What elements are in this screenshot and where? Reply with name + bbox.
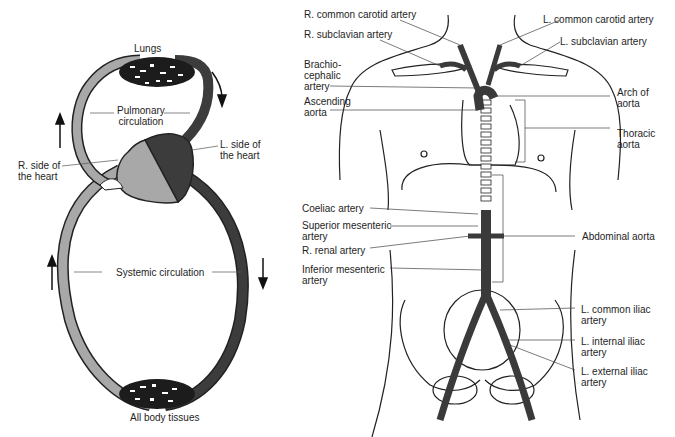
label-l-subclavian: L. subclavian artery [560,36,647,47]
label-body-tissues: All body tissues [130,412,199,423]
label-coeliac-artery: Coeliac artery [302,203,364,214]
label-right-heart: R. side of the heart [18,160,60,182]
label-inferior-mesenteric: Inferior mesenteric artery [302,264,385,286]
label-lungs: Lungs [134,43,161,54]
label-arch-of-aorta: Arch of aorta [617,87,649,109]
label-r-renal-artery: R. renal artery [302,245,365,256]
label-l-internal-iliac: L. internal iliac artery [581,336,645,358]
label-brachiocephalic: Brachio- cephalic artery [304,59,341,92]
label-systemic-circulation: Systemic circulation [116,267,204,278]
label-thoracic-aorta: Thoracic aorta [617,128,655,150]
label-superior-mesenteric: Superior mesenteric artery [302,220,391,242]
label-pulmonary-circulation: Pulmonary circulation [117,105,165,127]
label-r-common-carotid: R. common carotid artery [304,9,416,20]
label-l-common-carotid: L. common carotid artery [543,14,654,25]
label-r-subclavian: R. subclavian artery [304,29,392,40]
label-l-common-iliac: L. common iliac artery [581,304,650,326]
label-l-external-iliac: L. external iliac artery [581,366,648,388]
label-abdominal-aorta: Abdominal aorta [582,231,655,242]
label-left-heart: L. side of the heart [220,139,261,161]
label-ascending-aorta: Ascending aorta [304,96,351,118]
